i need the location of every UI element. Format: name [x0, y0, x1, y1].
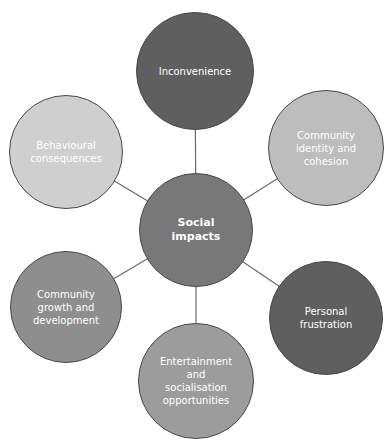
- node-personal-frustration: Personal frustration: [269, 261, 383, 375]
- node-community-identity: Community identity and cohesion: [268, 90, 384, 206]
- node-label: Personal frustration: [292, 305, 361, 331]
- node-entertainment: Entertainment and socialisation opportun…: [138, 323, 254, 439]
- hub-label: Social impacts: [164, 216, 229, 244]
- node-label: Community growth and development: [25, 288, 107, 327]
- node-label: Behavioural consequences: [22, 139, 109, 165]
- node-inconvenience: Inconvenience: [136, 12, 254, 130]
- node-label: Inconvenience: [151, 65, 240, 78]
- hub-social-impacts: Social impacts: [139, 173, 253, 287]
- node-label: Entertainment and socialisation opportun…: [152, 355, 240, 407]
- node-community-growth: Community growth and development: [10, 251, 122, 363]
- node-behavioural: Behavioural consequences: [9, 95, 123, 209]
- node-label: Community identity and cohesion: [288, 129, 364, 168]
